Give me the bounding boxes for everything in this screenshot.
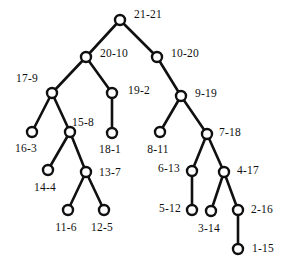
tree-node-circle[interactable] [65, 127, 75, 137]
tree-edge [32, 93, 52, 132]
tree-node-circle[interactable] [27, 127, 37, 137]
tree-edge [120, 20, 157, 57]
tree-node-circle[interactable] [63, 205, 73, 215]
tree-node-circle[interactable] [152, 52, 162, 62]
tree-edge [86, 57, 112, 93]
tree-node-circle[interactable] [115, 15, 125, 25]
tree-node-circle[interactable] [81, 52, 91, 62]
tree-edge [70, 132, 86, 172]
tree-node-circle[interactable] [187, 205, 197, 215]
tree-node-circle[interactable] [176, 91, 186, 101]
tree-node-circle[interactable] [99, 205, 109, 215]
tree-node-circle[interactable] [155, 127, 165, 137]
tree-edge [52, 57, 86, 93]
tree-edge [68, 172, 86, 210]
tree-edge [157, 57, 181, 96]
tree-nodes-group [27, 15, 243, 254]
tree-node-circle[interactable] [47, 88, 57, 98]
tree-node-circle[interactable] [219, 167, 229, 177]
tree-edge [52, 93, 70, 132]
tree-edge [207, 134, 224, 172]
tree-node-circle[interactable] [233, 244, 243, 254]
tree-node-circle[interactable] [206, 206, 216, 216]
tree-node-circle[interactable] [43, 165, 53, 175]
tree-edge [86, 20, 120, 57]
tree-node-circle[interactable] [107, 128, 117, 138]
tree-edge [86, 172, 104, 210]
tree-edge [48, 132, 70, 170]
tree-edge [181, 96, 207, 134]
tree-node-circle[interactable] [202, 129, 212, 139]
tree-diagram-figure: 21-2120-1010-2017-919-29-1916-315-818-18… [0, 0, 289, 270]
tree-node-circle[interactable] [107, 88, 117, 98]
tree-node-circle[interactable] [233, 205, 243, 215]
tree-node-circle[interactable] [81, 167, 91, 177]
tree-diagram-canvas [0, 0, 289, 270]
tree-node-circle[interactable] [187, 166, 197, 176]
tree-edge [160, 96, 181, 132]
